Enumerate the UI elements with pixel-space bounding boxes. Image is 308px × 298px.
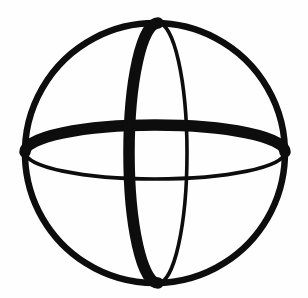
sphere-wireframe-figure: [0, 0, 308, 298]
canvas-background: [0, 0, 308, 298]
drawing-canvas: [0, 0, 308, 298]
